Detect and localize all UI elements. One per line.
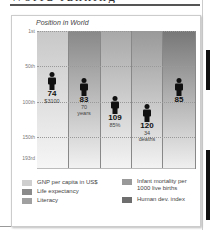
y-tick-label: 50th — [13, 63, 35, 69]
person-icon — [110, 96, 120, 114]
baseline — [37, 168, 195, 169]
plot-area: 1st 50th 100th 150th 193rd 74 $3100 83 7… — [37, 31, 195, 169]
legend-label-infant: Infant mortality per1000 live births — [137, 178, 187, 192]
legend-swatch-hdi — [122, 197, 132, 203]
stat-unit: deaths — [132, 136, 162, 142]
y-tick-label: 193rd — [13, 155, 35, 161]
person-icon — [174, 78, 184, 96]
rank-value: 83 — [69, 96, 99, 104]
gridline — [37, 137, 195, 138]
chart-panel: Position in World 1st 50th 100th 150th 1… — [11, 15, 201, 227]
rank-value: 120 — [132, 122, 162, 130]
rank-marker-infant-mortality: 120 34 deaths — [132, 104, 162, 142]
legend-swatch-literacy — [22, 198, 32, 204]
rank-marker-life-expectancy: 83 70 years — [69, 78, 99, 116]
legend-label-gnp: GNP per capita in US$ — [37, 179, 98, 186]
chart-title: Position in World — [36, 19, 89, 26]
stat-unit: years — [69, 110, 99, 116]
y-tick-label: 1st — [13, 28, 35, 34]
legend-swatch-life — [22, 189, 32, 195]
page-edge-bar — [206, 150, 210, 220]
rank-value: 85 — [164, 96, 194, 104]
stat-value: $3100 — [37, 98, 67, 104]
legend-label-literacy: Literacy — [37, 197, 58, 204]
header-title-fragment: World ranking — [10, 0, 140, 3]
gridline — [37, 31, 195, 32]
page-divider — [202, 0, 203, 230]
legend-swatch-gnp — [22, 180, 32, 186]
page-edge-bar — [206, 50, 210, 90]
legend-label-hdi: Human dev. index — [137, 196, 185, 203]
person-icon — [47, 72, 57, 90]
legend-label-life: Life expectancy — [37, 188, 79, 195]
column-infant-mortality — [132, 31, 163, 169]
rank-value: 109 — [100, 114, 130, 122]
stat-value: 85% — [100, 122, 130, 128]
title-rule — [10, 4, 200, 6]
rank-marker-literacy: 109 85% — [100, 96, 130, 128]
person-icon — [142, 104, 152, 122]
rank-marker-hdi: 85 — [164, 78, 194, 104]
legend-swatch-infant — [122, 179, 132, 185]
person-icon — [79, 78, 89, 96]
y-tick-label: 150th — [13, 134, 35, 140]
rank-marker-gnp: 74 $3100 — [37, 72, 67, 104]
rank-value: 74 — [37, 90, 67, 98]
y-tick-label: 100th — [13, 99, 35, 105]
gridline — [37, 66, 195, 67]
